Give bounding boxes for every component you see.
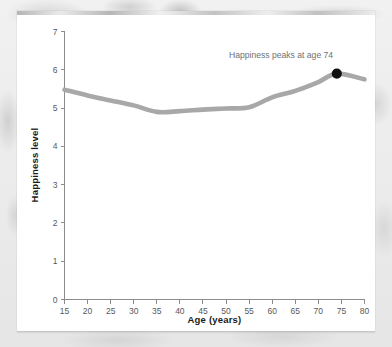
card-bottom-shadow [17, 331, 375, 334]
y-axis-title: Happiness level [29, 128, 40, 203]
y-tick-label: 5 [53, 103, 58, 113]
peak-marker-dot [332, 69, 342, 79]
y-tick-label: 7 [53, 27, 58, 37]
peak-annotation-label: Happiness peaks at age 74 [229, 50, 333, 60]
x-tick-label: 55 [244, 306, 254, 316]
x-tick-label: 40 [175, 306, 185, 316]
x-tick-label: 30 [129, 306, 139, 316]
x-tick-label: 60 [267, 306, 277, 316]
page-background: 01234567 1520253035404550556065707580 Ha… [0, 0, 392, 347]
happiness-data-line [65, 74, 365, 113]
y-tick-label: 0 [53, 295, 58, 305]
y-tick-label: 4 [53, 141, 58, 151]
figure-card: 01234567 1520253035404550556065707580 Ha… [17, 11, 375, 331]
x-tick-label: 20 [83, 306, 93, 316]
y-tick-label: 2 [53, 218, 58, 228]
y-axis-ticks: 01234567 [53, 27, 65, 305]
x-tick-label: 70 [314, 306, 324, 316]
x-axis-title: Age (years) [188, 314, 242, 325]
y-tick-label: 1 [53, 256, 58, 266]
happiness-by-age-line-chart: 01234567 1520253035404550556065707580 Ha… [17, 11, 375, 331]
x-tick-label: 35 [152, 306, 162, 316]
y-tick-label: 6 [53, 65, 58, 75]
x-tick-label: 15 [60, 306, 70, 316]
x-tick-label: 25 [106, 306, 116, 316]
x-tick-label: 75 [337, 306, 347, 316]
x-tick-label: 80 [360, 306, 370, 316]
y-tick-label: 3 [53, 180, 58, 190]
x-tick-label: 65 [291, 306, 301, 316]
